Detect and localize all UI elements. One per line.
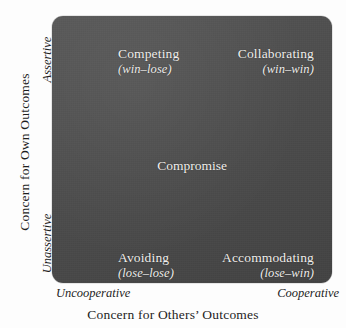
y-axis-title: Concern for Own Outcomes xyxy=(17,42,33,262)
quadrant-accommodating-outcome: (lose–win) xyxy=(222,266,314,281)
quadrant-competing: Competing (win–lose) xyxy=(118,46,179,77)
quadrant-collaborating-outcome: (win–win) xyxy=(238,62,314,77)
x-axis-high-label: Cooperative xyxy=(277,286,339,301)
quadrant-accommodating-name: Accommodating xyxy=(222,250,314,266)
quadrant-collaborating-name: Collaborating xyxy=(238,46,314,62)
figure-canvas: Competing (win–lose) Collaborating (win–… xyxy=(0,0,346,328)
quadrant-competing-name: Competing xyxy=(118,46,179,62)
x-axis-title: Concern for Others’ Outcomes xyxy=(0,307,346,323)
quadrant-avoiding: Avoiding (lose–lose) xyxy=(118,250,174,281)
quadrant-compromise-name: Compromise xyxy=(157,158,227,173)
matrix-box: Competing (win–lose) Collaborating (win–… xyxy=(52,16,332,283)
quadrant-collaborating: Collaborating (win–win) xyxy=(238,46,314,77)
quadrant-avoiding-outcome: (lose–lose) xyxy=(118,266,174,281)
y-axis-low-label: Unassertive xyxy=(40,188,55,300)
quadrant-accommodating: Accommodating (lose–win) xyxy=(222,250,314,281)
x-axis-low-label: Uncooperative xyxy=(56,286,130,301)
quadrant-competing-outcome: (win–lose) xyxy=(118,62,179,77)
quadrant-compromise: Compromise xyxy=(52,158,332,174)
quadrant-avoiding-name: Avoiding xyxy=(118,250,174,266)
y-axis-high-label: Assertive xyxy=(40,10,55,110)
